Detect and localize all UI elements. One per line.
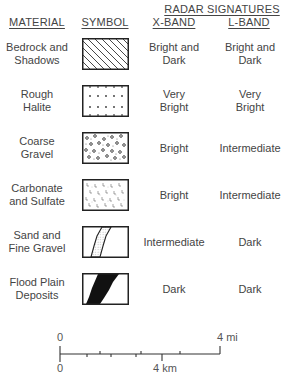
- l-band-value: Intermediate: [217, 142, 283, 155]
- material-line: Deposits: [0, 289, 74, 302]
- material-line: Fine Gravel: [0, 242, 74, 255]
- material-line: Carbonate: [0, 182, 74, 195]
- x-band-value: Bright: [146, 142, 202, 155]
- x-band-line: Dark: [146, 54, 202, 67]
- x-band-value: Dark: [146, 283, 202, 296]
- x-band-value: Very Bright: [146, 88, 202, 114]
- stippled-band-symbol: [82, 226, 129, 258]
- material-label: Flood Plain Deposits: [0, 276, 74, 302]
- x-band-line: Bright: [146, 101, 202, 114]
- material-label: Rough Halite: [0, 88, 74, 114]
- radar-signatures-heading: RADAR SIGNATURES: [163, 3, 281, 15]
- x-band-line: Bright: [146, 189, 202, 202]
- material-line: Halite: [0, 101, 74, 114]
- material-line: Gravel: [0, 148, 74, 161]
- l-band-line: Intermediate: [217, 142, 283, 155]
- l-band-line: Dark: [220, 54, 280, 67]
- l-band-value: Dark: [220, 283, 280, 296]
- material-label: Sand and Fine Gravel: [0, 229, 74, 255]
- l-band-line: Dark: [220, 283, 280, 296]
- symbol-column-header: SYMBOL: [80, 16, 130, 28]
- x-band-line: Bright and: [146, 41, 202, 54]
- dots-grid-symbol: [82, 85, 129, 117]
- x-band-line: Very: [146, 88, 202, 101]
- scale-km-end-label: 4 km: [153, 362, 177, 374]
- material-line: and Sulfate: [0, 195, 74, 208]
- material-column-header: MATERIAL: [8, 16, 66, 28]
- l-band-value: Very Bright: [220, 88, 280, 114]
- material-label: Coarse Gravel: [0, 135, 74, 161]
- l-marks-stipple-symbol: [82, 179, 129, 211]
- x-band-line: Dark: [146, 283, 202, 296]
- material-line: Sand and: [0, 229, 74, 242]
- material-line: Shadows: [0, 54, 74, 67]
- material-line: Rough: [0, 88, 74, 101]
- material-line: Bedrock and: [0, 41, 74, 54]
- x-band-value: Intermediate: [140, 236, 208, 249]
- l-band-line: Intermediate: [217, 189, 283, 202]
- x-band-line: Intermediate: [140, 236, 208, 249]
- solid-black-band-symbol: [82, 273, 129, 305]
- material-label: Carbonate and Sulfate: [0, 182, 74, 208]
- l-band-value: Intermediate: [217, 189, 283, 202]
- material-line: Coarse: [0, 135, 74, 148]
- l-band-value: Bright and Dark: [220, 41, 280, 67]
- material-label: Bedrock and Shadows: [0, 41, 74, 67]
- l-band-column-header: L-BAND: [227, 16, 271, 28]
- scale-km-zero-label: 0: [57, 362, 63, 374]
- material-line: Flood Plain: [0, 276, 74, 289]
- l-band-line: Very: [220, 88, 280, 101]
- x-band-line: Bright: [146, 142, 202, 155]
- x-band-value: Bright: [146, 189, 202, 202]
- scale-bar: [55, 342, 230, 368]
- l-band-line: Bright: [220, 101, 280, 114]
- x-band-column-header: X-BAND: [152, 16, 196, 28]
- l-band-line: Bright and: [220, 41, 280, 54]
- x-band-value: Bright and Dark: [146, 41, 202, 67]
- diagonal-hatch-symbol: [82, 38, 129, 70]
- small-circles-symbol: [82, 132, 129, 164]
- l-band-line: Dark: [220, 236, 280, 249]
- l-band-value: Dark: [220, 236, 280, 249]
